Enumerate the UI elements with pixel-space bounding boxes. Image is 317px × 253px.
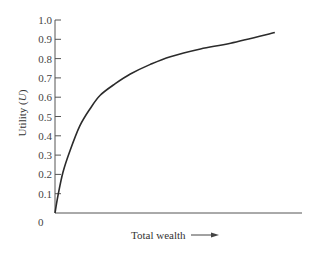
y-tick-label: 1.0	[38, 14, 52, 26]
y-ticks	[55, 20, 61, 194]
y-tick-label: 0.8	[38, 53, 52, 65]
x-axis-label: Total wealth	[131, 229, 186, 241]
utility-curve	[55, 33, 275, 213]
y-tick-label: 0.2	[38, 168, 52, 180]
y-axis-label: Utility (U)	[16, 89, 29, 136]
x-direction-arrow-icon	[191, 233, 219, 238]
y-tick-label: 0.5	[38, 111, 52, 123]
y-tick-label: 0.9	[38, 33, 52, 45]
y-tick-label: 0.6	[38, 91, 52, 103]
origin-label: 0	[38, 216, 44, 228]
utility-chart: 0.10.20.30.40.50.60.70.80.91.0 Utility (…	[0, 0, 317, 253]
y-tick-label: 0.3	[38, 149, 52, 161]
y-tick-label: 0.1	[38, 188, 52, 200]
y-tick-labels: 0.10.20.30.40.50.60.70.80.91.0	[38, 14, 52, 200]
y-tick-label: 0.4	[38, 130, 52, 142]
y-tick-label: 0.7	[38, 72, 52, 84]
